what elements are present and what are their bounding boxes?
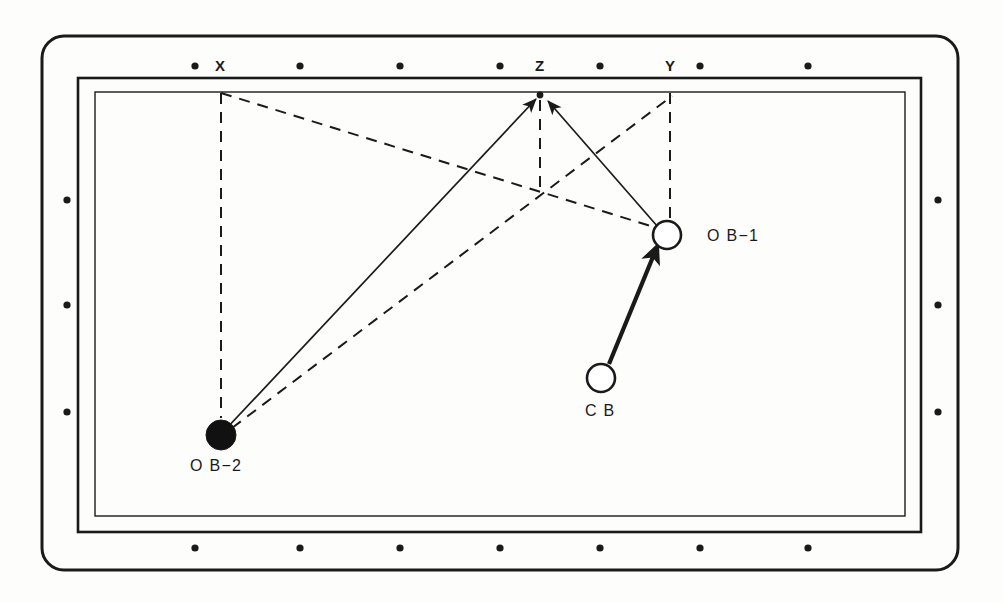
rail-marker-top-4: [596, 62, 603, 69]
rail-marker-bottom-3: [496, 544, 503, 551]
rail-marker-bottom-5: [696, 544, 703, 551]
object-ball-2: [206, 420, 236, 450]
rail-marker-top-2: [396, 62, 403, 69]
rail-label-z: Z: [535, 58, 545, 73]
rail-marker-right-1: [934, 301, 941, 308]
rail-marker-left-2: [63, 408, 70, 415]
table-frame-group: [42, 36, 958, 570]
rail-marker-top-3: [496, 62, 503, 69]
rail-marker-left-1: [63, 301, 70, 308]
cue-ball-label: C B: [585, 403, 616, 419]
rail-marker-right-2: [934, 408, 941, 415]
rail-marker-right-0: [934, 196, 941, 203]
rail-label-x: X: [215, 58, 226, 73]
target-point-z: [537, 92, 544, 99]
table-playing-surface: [95, 92, 905, 516]
object-ball-1-label: O B−1: [707, 228, 759, 244]
rail-marker-top-1: [296, 62, 303, 69]
cue-ball: [587, 364, 615, 392]
billiard-diagram-canvas: X Z Y O B−1 O B−2 C B: [0, 0, 1003, 603]
rail-marker-top-5: [696, 62, 703, 69]
rail-marker-top-6: [804, 62, 811, 69]
diagram-svg: [0, 0, 1003, 603]
object-ball-2-label: O B−2: [190, 458, 242, 474]
rail-marker-left-0: [63, 196, 70, 203]
rail-marker-top-0: [191, 62, 198, 69]
aim-point-group: [537, 92, 544, 99]
rail-marker-bottom-6: [804, 544, 811, 551]
rail-marker-bottom-2: [396, 544, 403, 551]
rail-label-y: Y: [665, 58, 676, 73]
rail-marker-bottom-1: [296, 544, 303, 551]
rail-marker-bottom-4: [596, 544, 603, 551]
object-ball-1: [653, 221, 681, 249]
rail-marker-bottom-0: [191, 544, 198, 551]
